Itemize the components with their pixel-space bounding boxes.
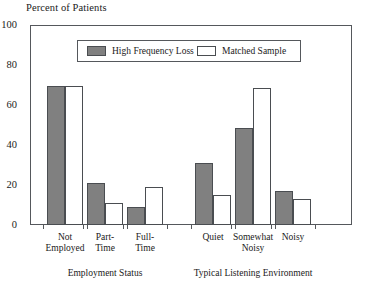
legend-swatch-icon-high-frequency-loss <box>87 46 106 56</box>
x-tick-label: Quiet <box>202 232 223 243</box>
bar <box>253 88 271 225</box>
bar <box>65 86 83 225</box>
x-tick-label: Not Employed <box>45 232 84 253</box>
bar <box>195 163 213 225</box>
x-tick-mark <box>271 225 272 229</box>
legend-entry-matched-sample: Matched Sample <box>197 46 286 56</box>
legend-label-matched-sample: Matched Sample <box>222 46 286 56</box>
bar <box>213 195 231 225</box>
x-tick-label: Part- Time <box>95 232 115 253</box>
bar <box>293 199 311 225</box>
bar <box>235 128 253 226</box>
bar <box>145 187 163 225</box>
bar <box>105 203 123 225</box>
y-tick-label: 80 <box>7 60 18 71</box>
x-tick-mark <box>43 225 44 229</box>
chart-legend: High Frequency Loss Matched Sample <box>77 40 301 62</box>
bar <box>47 86 65 225</box>
group-title-listening-environment: Typical Listening Environment <box>194 268 313 278</box>
y-tick-label: 20 <box>7 180 18 191</box>
x-tick-mark <box>123 225 124 229</box>
chart-axis-title: Percent of Patients <box>26 2 107 13</box>
x-tick-mark <box>83 225 84 229</box>
y-axis: 100806040200 <box>0 0 30 290</box>
x-tick-mark <box>315 225 316 229</box>
x-tick-mark <box>231 225 232 229</box>
x-axis: Not EmployedPart- TimeFull- TimeQuietSom… <box>31 228 351 262</box>
x-tick-mark <box>275 225 276 229</box>
y-tick-label: 100 <box>1 20 17 31</box>
x-tick-mark <box>127 225 128 229</box>
y-tick-label: 0 <box>12 220 17 231</box>
legend-label-high-frequency-loss: High Frequency Loss <box>112 46 194 56</box>
y-tick-label: 60 <box>7 100 18 111</box>
x-tick-mark <box>167 225 168 229</box>
legend-entry-high-frequency-loss: High Frequency Loss <box>87 46 194 56</box>
x-tick-label: Somewhat Noisy <box>233 232 273 253</box>
x-tick-label: Noisy <box>282 232 305 243</box>
group-title-employment-status: Employment Status <box>68 268 143 278</box>
bar <box>127 207 145 225</box>
y-tick-label: 40 <box>7 140 18 151</box>
x-tick-mark <box>191 225 192 229</box>
legend-swatch-icon-matched-sample <box>197 46 216 56</box>
bar-chart: Percent of Patients 100806040200 Not Emp… <box>0 0 365 290</box>
x-tick-mark <box>235 225 236 229</box>
bar <box>275 191 293 225</box>
x-tick-mark <box>87 225 88 229</box>
x-tick-label: Full- Time <box>135 232 155 253</box>
bar <box>87 183 105 225</box>
